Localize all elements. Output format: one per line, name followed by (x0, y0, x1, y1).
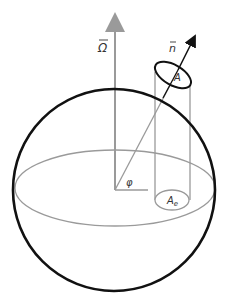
area-ellipse (151, 56, 196, 93)
area-label: A (173, 72, 181, 83)
omega-label: Ω (97, 41, 108, 55)
normal-label: n (169, 42, 176, 55)
angle-label: φ (126, 177, 133, 188)
sphere-diagram: Ω n A φ Ae (0, 0, 226, 299)
normal-vector (178, 40, 193, 70)
